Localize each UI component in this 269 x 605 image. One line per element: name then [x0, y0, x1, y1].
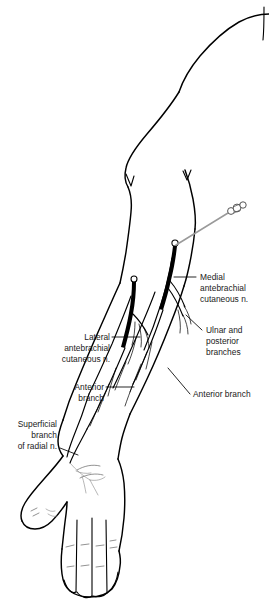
medial-nerve-origin-circle	[172, 240, 178, 246]
label-medial-line-1: Medial	[200, 272, 225, 282]
label-anterior-left-line-2: branch	[78, 393, 104, 403]
label-medial-line-3: cutaneous n.	[200, 294, 248, 304]
label-ulnar-line-3: branches	[206, 347, 241, 357]
label-anterior-branch-right: Anterior branch	[193, 389, 251, 399]
label-anterior-right-line-1: Anterior branch	[193, 389, 251, 399]
label-anterior-branch-left: Anterior branch	[75, 382, 105, 403]
label-lateral-line-3: cutaneous n.	[62, 354, 110, 364]
label-radial-line-2: branch	[31, 430, 57, 440]
figure-canvas: Medial antebrachial cutaneous n. Ulnar a…	[0, 0, 269, 605]
anatomical-figure: Medial antebrachial cutaneous n. Ulnar a…	[0, 0, 269, 605]
label-anterior-left-line-1: Anterior	[75, 382, 105, 392]
label-medial-line-2: antebrachial	[200, 283, 246, 293]
label-radial-line-3: of radial n.	[18, 441, 57, 451]
label-ulnar-posterior-branches: Ulnar and posterior branches	[206, 325, 243, 357]
label-ulnar-line-2: posterior	[206, 336, 239, 346]
label-lateral-line-1: Lateral	[84, 332, 110, 342]
label-lateral-line-2: antebrachial	[64, 343, 110, 353]
lateral-nerve-origin-circle	[131, 276, 137, 282]
label-ulnar-line-1: Ulnar and	[206, 325, 243, 335]
label-radial-line-1: Superficial	[18, 419, 57, 429]
